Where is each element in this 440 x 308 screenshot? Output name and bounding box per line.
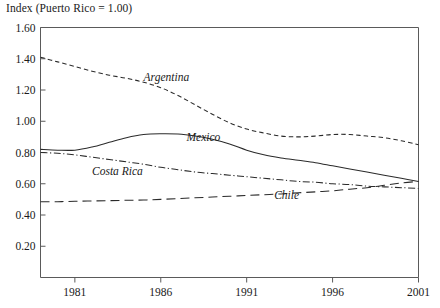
series-group — [41, 57, 419, 202]
series-label-argentina: Argentina — [143, 71, 190, 84]
series-label-costa-rica: Costa Rica — [92, 165, 143, 177]
x-tick-label: 1991 — [235, 286, 258, 298]
y-tick-label: 0.80 — [15, 147, 35, 159]
x-tick-label: 1986 — [149, 286, 172, 298]
line-chart-plot: 0.200.400.600.801.001.201.401.60 1981198… — [0, 0, 440, 308]
y-tick-label: 1.40 — [15, 53, 35, 65]
axes-group — [41, 28, 419, 278]
x-tick-label: 1996 — [321, 286, 344, 298]
y-tick-label: 1.20 — [15, 84, 35, 96]
chart-page: Index (Puerto Rico = 1.00) 0.200.400.600… — [0, 0, 440, 308]
series-line-chile — [41, 181, 419, 201]
series-label-mexico: Mexico — [186, 131, 221, 143]
y-tick-label: 0.40 — [15, 209, 35, 221]
x-tick-label: 1981 — [63, 286, 86, 298]
y-tick-label: 1.60 — [15, 22, 35, 34]
series-label-chile: Chile — [274, 189, 299, 201]
x-tick-label: 2001 — [407, 286, 430, 298]
series-line-argentina — [41, 57, 419, 145]
x-axis-ticks: 19811986199119962001 — [63, 278, 430, 298]
y-tick-label: 0.60 — [15, 178, 35, 190]
series-labels-group: ArgentinaMexicoCosta RicaChile — [92, 71, 299, 201]
y-tick-label: 1.00 — [15, 115, 35, 127]
y-tick-label: 0.20 — [15, 240, 35, 252]
